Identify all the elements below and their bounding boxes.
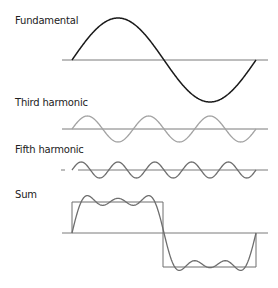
panel-fifth-harmonic xyxy=(61,162,268,178)
panel-fundamental xyxy=(62,18,268,102)
waveform-diagram xyxy=(0,0,278,288)
panel-third-harmonic xyxy=(62,116,268,142)
panel-sum xyxy=(62,196,268,271)
